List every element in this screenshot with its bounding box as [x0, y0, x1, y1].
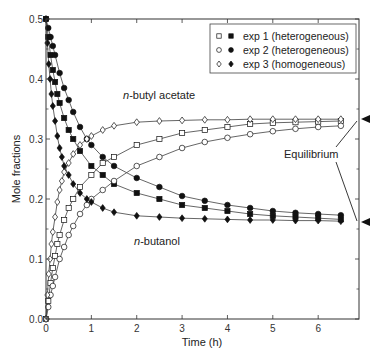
- filled-circle-marker: [111, 163, 117, 169]
- open-diamond-marker: [55, 199, 60, 206]
- filled-diamond-marker: [202, 215, 207, 222]
- equilibrium-arrow-lower: [336, 162, 357, 221]
- open-square-marker: [50, 265, 55, 270]
- open-square-marker: [111, 154, 116, 159]
- filled-circle-marker: [66, 97, 72, 103]
- label-n-butyl-acetate: n-butyl acetate: [123, 89, 195, 101]
- filled-diamond-marker: [134, 212, 139, 219]
- y-tick-label: 0.3: [29, 134, 43, 145]
- y-tick-label: 0.4: [29, 74, 43, 85]
- open-square-marker: [89, 172, 94, 177]
- equilibrium-marker-butanol-icon: [361, 218, 370, 226]
- open-diamond-marker: [66, 160, 71, 167]
- filled-diamond-marker: [55, 133, 60, 140]
- open-square-marker: [134, 142, 139, 147]
- open-square-marker: [57, 232, 62, 237]
- x-tick-labels: 0123456: [43, 323, 321, 334]
- open-square-marker: [157, 136, 162, 141]
- open-diamond-marker: [180, 117, 185, 124]
- filled-square-marker: [134, 190, 139, 195]
- filled-diamond-marker: [84, 196, 89, 203]
- open-circle-marker: [225, 135, 231, 141]
- filled-diamond-marker: [225, 216, 230, 223]
- filled-circle-marker: [293, 210, 299, 216]
- legend-label: exp 3 (homogeneous): [243, 58, 345, 70]
- open-circle-marker: [134, 163, 140, 169]
- open-circle-marker: [66, 232, 72, 238]
- filled-diamond-marker: [53, 118, 58, 125]
- open-square-marker: [100, 160, 105, 165]
- filled-diamond-marker: [46, 61, 51, 68]
- x-tick-label: 3: [179, 323, 185, 334]
- filled-square-marker: [229, 34, 233, 38]
- open-diamond-marker: [49, 241, 54, 248]
- y-tick-labels: 0.00.10.20.30.40.5: [29, 14, 43, 325]
- x-tick-label: 6: [315, 323, 321, 334]
- x-tick-label: 2: [134, 323, 140, 334]
- filled-circle-marker: [100, 154, 106, 160]
- filled-circle-marker: [134, 175, 140, 181]
- filled-diamond-marker: [49, 91, 54, 98]
- label-n-butanol: n-butanol: [134, 235, 180, 247]
- filled-square-marker: [225, 208, 230, 213]
- open-diamond-marker: [53, 214, 58, 221]
- filled-circle-marker: [89, 142, 95, 148]
- filled-square-marker: [52, 79, 57, 84]
- filled-circle-marker: [315, 211, 321, 217]
- open-diamond-marker: [57, 187, 62, 194]
- y-tick-label: 0.1: [29, 254, 43, 265]
- open-circle-marker: [57, 256, 63, 262]
- legend-label: exp 1 (heterogeneous): [243, 30, 349, 42]
- filled-square-marker: [50, 67, 55, 72]
- open-square-marker: [62, 217, 67, 222]
- x-tick-label: 0: [43, 323, 49, 334]
- label-equilibrium: Equilibrium: [284, 148, 338, 160]
- open-circle-marker: [338, 123, 344, 129]
- filled-circle-marker: [48, 34, 54, 40]
- mole-fraction-chart: 0123456 0.00.10.20.30.40.5 Time (h) Mole…: [0, 0, 375, 359]
- filled-square-marker: [100, 172, 105, 177]
- x-tick-label: 1: [89, 323, 95, 334]
- filled-circle-marker: [61, 85, 67, 91]
- open-circle-marker: [70, 223, 76, 229]
- open-circle-marker: [179, 145, 185, 151]
- open-circle-marker: [52, 274, 58, 280]
- y-tick-label: 0.2: [29, 194, 43, 205]
- filled-circle-marker: [202, 198, 208, 204]
- filled-diamond-marker: [180, 215, 185, 222]
- filled-diamond-marker: [50, 103, 55, 110]
- open-circle-marker: [293, 126, 299, 132]
- filled-circle-marker: [50, 43, 56, 49]
- open-diamond-marker: [50, 229, 55, 236]
- filled-diamond-marker: [248, 217, 253, 224]
- filled-diamond-marker: [59, 154, 64, 161]
- open-square-marker: [217, 34, 221, 38]
- filled-square-marker: [55, 91, 60, 96]
- open-diamond-marker: [202, 116, 207, 123]
- open-diamond-marker: [157, 118, 162, 125]
- filled-diamond-marker: [100, 205, 105, 212]
- open-diamond-marker: [134, 119, 139, 126]
- filled-square-marker: [202, 205, 207, 210]
- filled-circle-marker: [70, 109, 76, 115]
- filled-square-marker: [57, 100, 62, 105]
- filled-square-marker: [157, 196, 162, 201]
- filled-square-marker: [66, 127, 71, 132]
- legend: exp 1 (heterogeneous)exp 2 (heterogeneou…: [210, 24, 356, 73]
- open-square-marker: [55, 241, 60, 246]
- filled-circle-marker: [225, 202, 231, 208]
- filled-diamond-marker: [157, 214, 162, 221]
- x-tick-label: 5: [270, 323, 276, 334]
- open-circle-marker: [315, 124, 321, 130]
- open-circle-marker: [270, 128, 276, 134]
- filled-circle-marker: [179, 193, 185, 199]
- open-circle-marker: [100, 187, 106, 193]
- open-square-marker: [225, 124, 230, 129]
- filled-square-marker: [71, 136, 76, 141]
- open-circle-marker: [50, 283, 56, 289]
- open-diamond-marker: [100, 127, 105, 134]
- filled-circle-marker: [77, 124, 83, 130]
- filled-square-marker: [62, 115, 67, 120]
- open-circle-marker: [77, 211, 83, 217]
- filled-diamond-marker: [57, 145, 62, 152]
